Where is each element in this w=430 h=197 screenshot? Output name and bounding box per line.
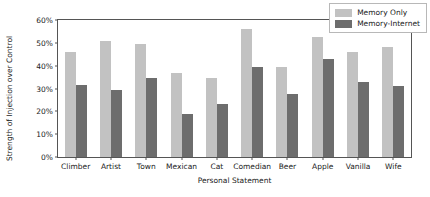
bar-memory-internet <box>146 78 157 157</box>
bar-memory-internet <box>76 85 87 157</box>
bar-groups <box>58 20 411 157</box>
legend-swatch-icon <box>335 9 352 17</box>
bar-memory-internet <box>111 90 122 157</box>
y-axis-tick-mark <box>55 157 58 158</box>
bar-group <box>340 20 375 157</box>
bar-memory-internet <box>393 86 404 157</box>
x-axis-tick-mark <box>181 157 182 160</box>
y-axis-title: Strength of Injection over Control <box>2 0 18 197</box>
bar-group <box>58 20 93 157</box>
y-axis-tick-mark <box>55 65 58 66</box>
bar-memory-only <box>171 73 182 157</box>
bar-memory-only <box>65 52 76 157</box>
y-axis-tick-mark <box>55 111 58 112</box>
bar-group <box>376 20 411 157</box>
bar-memory-only <box>100 41 111 157</box>
bar-memory-only <box>276 67 287 157</box>
bar-memory-internet <box>252 67 263 157</box>
x-axis-tick-mark <box>322 157 323 160</box>
legend-label: Memory-Internet <box>357 19 420 28</box>
x-axis-tick-mark <box>216 157 217 160</box>
bar-memory-internet <box>287 94 298 157</box>
x-axis-tick-mark <box>110 157 111 160</box>
legend-swatch-icon <box>335 20 352 28</box>
bar-chart-figure: Strength of Injection over Control 0%10%… <box>0 0 430 197</box>
legend-item: Memory-Internet <box>335 19 420 28</box>
bar-memory-only <box>241 29 252 157</box>
legend-label: Memory Only <box>357 8 407 17</box>
chart-legend: Memory OnlyMemory-Internet <box>329 3 427 33</box>
bar-group <box>270 20 305 157</box>
bar-group <box>93 20 128 157</box>
plot-area: 0%10%20%30%40%50%60%ClimberArtistTownMex… <box>57 19 412 158</box>
bar-memory-internet <box>358 82 369 157</box>
bar-memory-internet <box>217 104 228 157</box>
x-axis-tick-mark <box>393 157 394 160</box>
bar-memory-internet <box>323 59 334 157</box>
bar-group <box>305 20 340 157</box>
bar-group <box>234 20 269 157</box>
bar-memory-internet <box>182 114 193 157</box>
bar-memory-only <box>312 37 323 157</box>
legend-item: Memory Only <box>335 8 420 17</box>
x-axis-tick-mark <box>287 157 288 160</box>
y-axis-tick-mark <box>55 42 58 43</box>
x-axis-title: Personal Statement <box>57 176 412 185</box>
bar-memory-only <box>206 78 217 157</box>
x-axis-tick-mark <box>75 157 76 160</box>
x-axis-tick-mark <box>146 157 147 160</box>
bar-group <box>164 20 199 157</box>
bar-group <box>129 20 164 157</box>
y-axis-tick-mark <box>55 20 58 21</box>
y-axis-tick-mark <box>55 88 58 89</box>
bar-memory-only <box>135 44 146 157</box>
y-axis-tick-mark <box>55 134 58 135</box>
bar-memory-only <box>347 52 358 157</box>
x-axis-tick-mark <box>252 157 253 160</box>
x-axis-tick-mark <box>358 157 359 160</box>
bar-memory-only <box>382 47 393 157</box>
bar-group <box>199 20 234 157</box>
